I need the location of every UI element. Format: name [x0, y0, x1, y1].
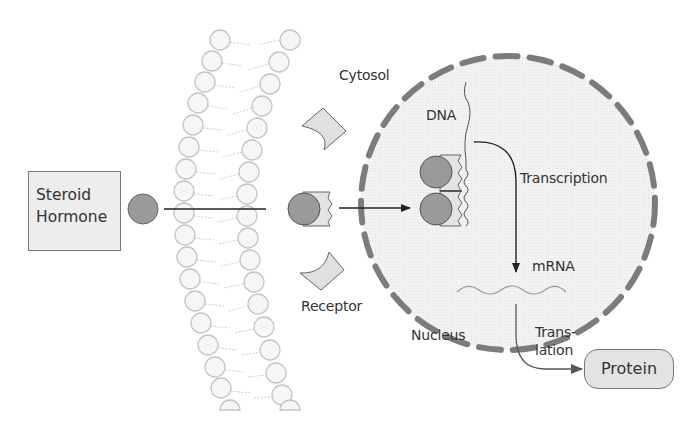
nucleus — [361, 56, 655, 350]
hormone-molecule — [128, 194, 158, 224]
protein-box: Protein — [584, 349, 674, 389]
cell-membrane — [174, 30, 300, 410]
receptor-top-shape — [302, 108, 346, 150]
cytosol-label: Cytosol — [339, 67, 389, 83]
steroid-hormone-label-line1: Steroid — [36, 186, 91, 204]
dna-label: DNA — [426, 107, 456, 123]
receptor-label: Receptor — [301, 298, 362, 314]
steroid-hormone-label-line2: Hormone — [36, 208, 107, 226]
mrna-label: mRNA — [532, 258, 575, 274]
translation-label-line2: lation — [535, 342, 573, 358]
hormone-receptor-complex — [288, 192, 332, 226]
translation-label-line1: Trans- — [535, 324, 576, 340]
nucleus-label: Nucleus — [411, 327, 465, 343]
transcription-label: Transcription — [520, 170, 607, 186]
receptor-bottom-shape — [300, 252, 344, 290]
steroid-hormone-box: Steroid Hormone — [28, 171, 121, 251]
